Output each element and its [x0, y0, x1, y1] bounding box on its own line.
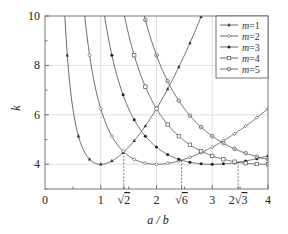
- circle-marker: [211, 163, 214, 166]
- circle-marker: [155, 146, 158, 149]
- x-tick-label: √2: [118, 193, 131, 207]
- x-axis-ticks: 01√22√632√34: [42, 185, 271, 207]
- square-marker: [222, 158, 225, 161]
- triangle-marker: [188, 41, 191, 44]
- diamond-marker: [155, 163, 158, 166]
- legend-label: m=3: [242, 42, 260, 53]
- diamond-marker: [110, 134, 113, 137]
- circle-marker: [228, 46, 231, 49]
- x-tick-label: 1: [98, 193, 104, 207]
- x-tick-label: 2√3: [229, 193, 248, 207]
- y-tick-label: 10: [28, 9, 40, 23]
- diamond-marker: [188, 156, 191, 159]
- y-axis-ticks: 46810: [28, 9, 49, 189]
- square-marker: [166, 123, 169, 126]
- series-line: [63, 0, 220, 164]
- triangle-marker: [199, 15, 202, 18]
- square-marker: [244, 161, 247, 164]
- diamond-marker: [88, 54, 91, 57]
- square-marker: [211, 154, 214, 157]
- square-marker: [144, 85, 147, 88]
- buckling-coefficient-chart: 01√22√632√34 46810 a / b k m=1m=2m=3m=4m…: [0, 0, 288, 234]
- circle-marker: [177, 158, 180, 161]
- circle-marker: [122, 93, 125, 96]
- legend-label: m=2: [242, 31, 260, 42]
- square-marker: [133, 54, 136, 57]
- triangle-marker: [66, 53, 69, 56]
- x-tick-label: 0: [42, 193, 48, 207]
- circle-marker: [110, 54, 113, 57]
- square-marker: [199, 149, 202, 152]
- x-tick-label: 4: [265, 193, 271, 207]
- x-tick-label: √6: [175, 193, 188, 207]
- dashed-drop-lines: [124, 152, 238, 189]
- circle-marker: [200, 162, 203, 165]
- y-tick-label: 4: [34, 157, 40, 171]
- y-tick-label: 8: [34, 58, 40, 72]
- square-marker: [155, 107, 158, 110]
- square-marker: [177, 134, 180, 137]
- square-marker: [233, 160, 236, 163]
- triangle-marker: [77, 134, 80, 137]
- x-axis-label: a / b: [147, 213, 168, 227]
- circle-marker: [133, 118, 136, 121]
- legend-label: m=5: [242, 64, 260, 75]
- y-axis-label: k: [9, 105, 23, 111]
- circle-marker: [166, 153, 169, 156]
- circle-marker: [188, 161, 191, 164]
- diamond-marker: [133, 158, 136, 161]
- diamond-marker: [99, 107, 102, 110]
- circle-marker: [222, 162, 225, 165]
- circle-marker: [144, 135, 147, 138]
- legend-label: m=1: [242, 20, 260, 31]
- x-tick-label: 2: [154, 193, 160, 207]
- legend: m=1m=2m=3m=4m=5: [216, 16, 268, 78]
- square-marker: [227, 56, 230, 59]
- square-marker: [255, 162, 258, 165]
- diamond-marker: [211, 145, 214, 148]
- y-tick-label: 6: [34, 108, 40, 122]
- series-m1: [63, 0, 220, 166]
- x-tick-label: 3: [209, 193, 215, 207]
- square-marker: [188, 143, 191, 146]
- legend-label: m=4: [242, 53, 260, 64]
